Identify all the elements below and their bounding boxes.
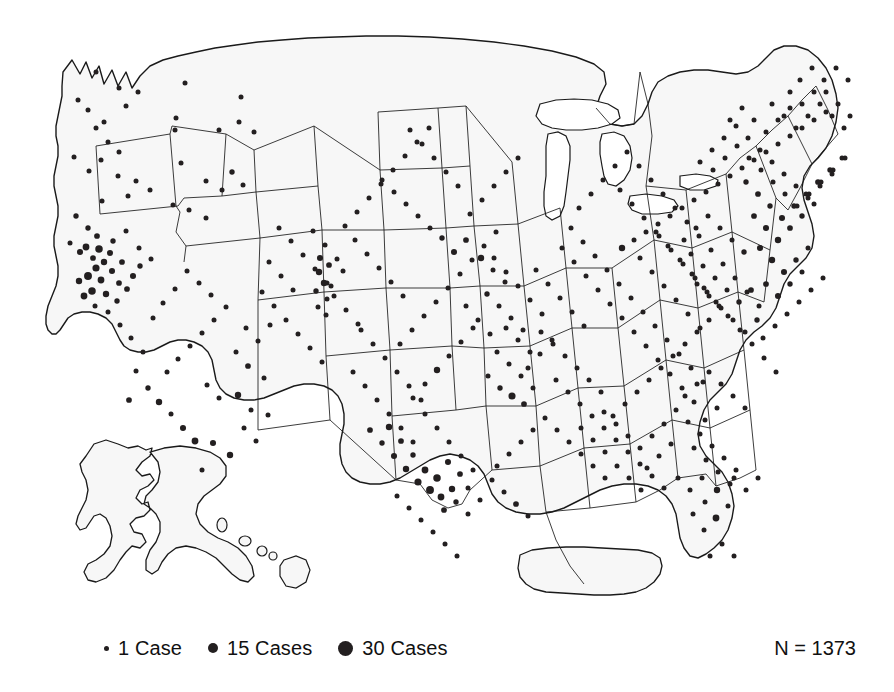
case-dot <box>725 288 730 293</box>
case-dot <box>466 512 471 517</box>
case-dot <box>212 318 217 323</box>
case-dot <box>106 310 111 315</box>
case-dot <box>428 226 433 231</box>
case-dot <box>423 412 428 417</box>
case-dot <box>623 402 628 407</box>
case-dot <box>183 81 188 86</box>
case-dot <box>662 284 667 289</box>
case-dot <box>579 452 584 457</box>
case-dot <box>439 235 444 240</box>
case-dot <box>783 192 788 197</box>
case-dot <box>118 323 123 328</box>
case-dot <box>169 412 174 417</box>
case-dot <box>804 192 809 197</box>
case-dot <box>99 158 104 163</box>
case-dot <box>815 179 821 185</box>
case-dot <box>488 332 493 337</box>
case-dot <box>528 298 533 303</box>
case-dot <box>134 179 139 184</box>
case-dot <box>456 184 461 189</box>
case-dot <box>602 426 607 431</box>
case-dot <box>272 304 277 309</box>
case-dot <box>531 386 536 391</box>
case-dot <box>371 342 376 347</box>
case-dot <box>758 148 763 153</box>
case-dot <box>657 454 662 459</box>
case-dot <box>377 266 382 271</box>
case-dot <box>582 324 587 329</box>
case-dot <box>567 440 572 445</box>
case-dot <box>770 102 775 107</box>
case-dot <box>722 456 727 461</box>
case-dot <box>449 486 455 492</box>
case-dot <box>434 300 439 305</box>
case-dot <box>205 383 210 388</box>
case-dot <box>464 304 469 309</box>
case-dot <box>476 318 481 323</box>
case-dot <box>200 331 205 336</box>
case-dot <box>731 318 736 323</box>
legend-label-1-case: 1 Case <box>118 638 182 658</box>
case-dot <box>591 438 596 443</box>
case-dot <box>677 352 682 357</box>
case-dot <box>260 290 265 295</box>
case-dot <box>776 142 781 147</box>
case-dot <box>209 293 214 298</box>
case-dot <box>453 499 458 504</box>
case-dot <box>761 336 766 341</box>
case-dot <box>136 90 141 95</box>
legend-entry-30-cases: 30 Cases <box>338 638 447 658</box>
case-dot <box>353 238 358 243</box>
case-dot <box>578 402 583 407</box>
case-dot <box>289 239 294 244</box>
case-dot <box>407 384 412 389</box>
case-dot <box>752 158 757 163</box>
case-dot <box>719 382 724 387</box>
case-dot <box>179 161 184 166</box>
case-dot <box>704 190 709 195</box>
case-dot <box>698 432 703 437</box>
case-dot <box>692 400 697 405</box>
case-dot <box>363 384 368 389</box>
case-dot <box>638 462 643 467</box>
case-dot <box>697 234 702 239</box>
case-dot <box>589 192 594 197</box>
case-dot <box>509 316 514 321</box>
case-dot <box>708 554 713 559</box>
case-dot <box>468 212 473 217</box>
legend-dot-small <box>104 646 109 651</box>
case-dot <box>692 198 697 203</box>
case-dot <box>757 304 762 309</box>
case-dot <box>781 269 787 275</box>
case-dot <box>701 380 706 385</box>
case-dot <box>508 392 515 399</box>
case-dot <box>503 280 508 285</box>
case-dot <box>605 268 610 273</box>
case-dot <box>174 116 179 121</box>
case-dot <box>734 468 739 473</box>
case-dot <box>735 144 740 149</box>
case-dot <box>599 390 604 395</box>
case-dot <box>659 366 664 371</box>
case-dot <box>748 287 754 293</box>
case-dot <box>531 428 536 433</box>
case-dot <box>812 202 817 207</box>
case-dot <box>718 226 723 231</box>
case-dot <box>516 338 521 343</box>
legend-label-15-cases: 15 Cases <box>227 638 312 658</box>
case-dot <box>714 300 719 305</box>
case-dot <box>821 276 826 281</box>
case-dot <box>627 476 632 481</box>
case-dot <box>822 78 827 83</box>
case-dot <box>644 344 649 349</box>
case-dot <box>734 124 739 129</box>
case-dot <box>824 110 829 115</box>
case-dot <box>661 192 666 197</box>
case-dot <box>538 352 543 357</box>
case-dot <box>311 229 316 234</box>
case-dot <box>769 257 775 263</box>
case-dot <box>482 244 487 249</box>
case-dot <box>458 272 463 277</box>
case-dot <box>680 386 685 391</box>
case-dot <box>380 178 385 183</box>
